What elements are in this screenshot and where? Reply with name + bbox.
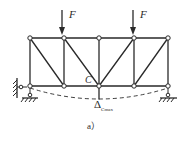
joint-node [97,36,101,40]
node-c-label: C [85,75,92,85]
left-support [13,78,38,102]
joint-node [62,36,66,40]
joint-node [28,84,32,88]
diagonal-member [99,38,134,86]
joint-node [166,84,170,88]
force-label-left: F [69,9,76,20]
load-arrow-left [59,10,65,35]
joint-node [166,36,170,40]
joint-node [28,36,32,40]
joint-node [132,84,136,88]
joint-node-c [97,84,101,88]
joint-node [62,84,66,88]
diagonal-member [64,38,99,86]
load-arrow-right [130,10,136,35]
figure-caption: a） [87,122,100,131]
joint-node [132,36,136,40]
delta-subscript: Cmax [101,107,113,112]
deflection-label: ΔCmax [94,99,113,110]
force-label-right: F [140,9,147,20]
diagonal-member [30,38,64,86]
diagonal-member [134,38,168,86]
